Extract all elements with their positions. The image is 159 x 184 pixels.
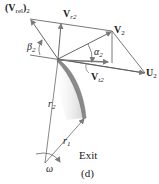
exit-label: Exit <box>79 150 97 161</box>
v-r2-vector <box>58 24 61 59</box>
omega-arrow <box>36 153 60 162</box>
v-rel2-label: (Vrel)2 <box>5 3 30 15</box>
r1-label: r1 <box>63 136 70 148</box>
v2-label: V2 <box>114 25 125 37</box>
v2-vector <box>58 32 111 59</box>
u2-label: U2 <box>146 68 157 80</box>
omega-label: ω <box>46 164 53 174</box>
v-t2-label: Vt2 <box>91 72 104 84</box>
parallelogram-right <box>112 31 145 73</box>
v-r2-label: Vr2 <box>63 9 76 21</box>
beta2-arc <box>39 40 42 55</box>
r2-line <box>45 60 58 163</box>
figure-caption: (d) <box>81 168 94 179</box>
r2-label: r2 <box>48 99 55 111</box>
alpha2-label: α2 <box>94 47 103 59</box>
v-t2-vector <box>58 60 108 62</box>
beta2-label: β2 <box>27 42 35 54</box>
alpha2-arc <box>88 44 92 62</box>
vt2-leader <box>86 64 89 73</box>
